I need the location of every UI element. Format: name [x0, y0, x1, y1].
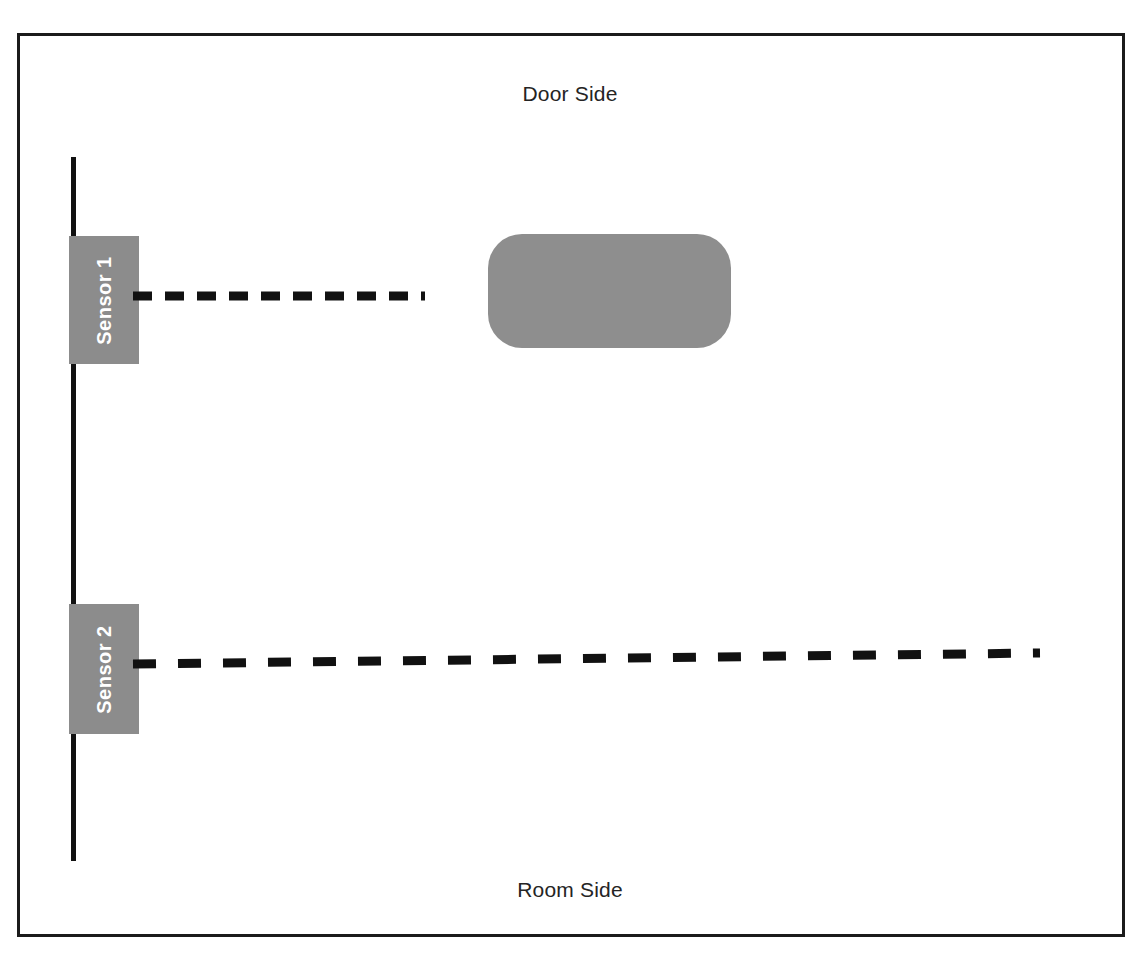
room-side-label: Room Side	[0, 878, 1140, 902]
sensor-2-label: Sensor 2	[93, 625, 116, 713]
door-side-label: Door Side	[0, 82, 1140, 106]
sensor-1-label: Sensor 1	[93, 256, 116, 344]
diagram-frame	[17, 33, 1125, 937]
diagram-canvas: Door Side Sensor 1 Sensor 2 Room Side	[0, 0, 1140, 962]
sensor-1-box: Sensor 1	[69, 236, 139, 364]
sensor-2-box: Sensor 2	[69, 604, 139, 734]
obstacle-object	[488, 234, 731, 348]
